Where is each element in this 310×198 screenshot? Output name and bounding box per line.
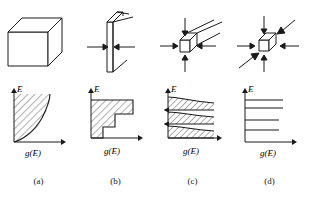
plot-a-sqrt-dos: E g(E)	[0, 86, 77, 168]
plot-d-delta-levels-dos: E g(E)	[231, 86, 308, 168]
axis-label-energy-c: E	[170, 84, 177, 94]
axis-label-energy-a: E	[16, 84, 23, 94]
caption-c: (c)	[154, 176, 231, 186]
axis-label-energy-b: E	[93, 84, 100, 94]
quantum-dot-cube	[231, 0, 308, 86]
panel-a: E g(E) (a)	[0, 0, 77, 198]
panel-d: E g(E) (d)	[231, 0, 308, 198]
bulk-crystal-cube	[0, 0, 77, 86]
plot-c-inverse-sqrt-dos: E g(E)	[154, 86, 231, 168]
quantum-wire-bar	[154, 0, 231, 86]
axis-label-dos-d: g(E)	[260, 148, 276, 158]
quantum-well-plate	[77, 0, 154, 86]
panel-b: E g(E) (b)	[77, 0, 154, 198]
caption-b: (b)	[77, 176, 154, 186]
plot-b-staircase-dos: E g(E)	[77, 86, 154, 168]
caption-a: (a)	[0, 176, 77, 186]
figure-density-of-states: E g(E) (a)	[0, 0, 310, 198]
axis-label-dos-b: g(E)	[104, 146, 120, 156]
caption-d: (d)	[231, 176, 308, 186]
panel-c: E g(E) (c)	[154, 0, 231, 198]
axis-label-dos-a: g(E)	[25, 148, 41, 158]
axis-label-dos-c: g(E)	[183, 146, 199, 156]
axis-label-energy-d: E	[247, 84, 254, 94]
